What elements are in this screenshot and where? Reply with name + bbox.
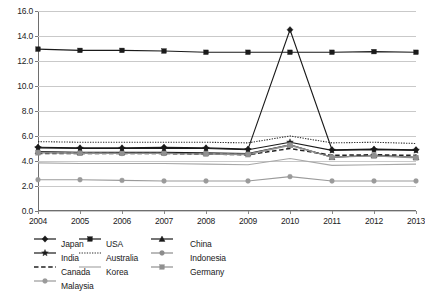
y-tick-label: 2.0 (22, 181, 33, 191)
y-tick-label: 14.0 (17, 31, 33, 41)
x-tick-mark (248, 211, 249, 214)
legend-key-triangle-icon (150, 234, 174, 244)
data-point (330, 50, 335, 55)
x-tick-mark (80, 211, 81, 214)
series-australia (38, 136, 416, 144)
y-tick-label: 12.0 (17, 56, 33, 66)
x-tick-mark (332, 211, 333, 214)
legend-label: USA (106, 239, 123, 249)
y-tick-label: 8.0 (22, 106, 33, 116)
x-tick-mark (164, 211, 165, 214)
series-line (38, 177, 416, 181)
data-point (372, 49, 377, 54)
x-tick-label: 2010 (281, 216, 299, 226)
data-point (162, 151, 167, 156)
series-line (38, 159, 416, 166)
series-line (38, 145, 416, 158)
data-point (288, 50, 293, 55)
series-line (38, 30, 416, 150)
x-tick-label: 2008 (197, 216, 215, 226)
x-tick-label: 2011 (323, 216, 340, 226)
data-point (414, 179, 419, 184)
series-germany (36, 143, 419, 160)
legend-label: Germany (190, 267, 224, 277)
data-point (36, 177, 41, 182)
legend-label: Malaysia (61, 281, 94, 291)
data-point (414, 156, 419, 161)
series-layer (38, 11, 416, 211)
data-point (78, 151, 83, 156)
series-india (35, 139, 420, 153)
y-tick-label: 16.0 (17, 6, 33, 16)
data-point (414, 50, 419, 55)
data-point (287, 27, 293, 33)
x-tick-label: 2004 (29, 216, 47, 226)
legend-key-none-icon (78, 248, 102, 258)
legend-key-diamond-icon (33, 234, 57, 244)
data-point (120, 151, 125, 156)
data-point (204, 179, 209, 184)
data-point (330, 155, 335, 160)
legend-label: Australia (106, 253, 138, 263)
plot-region: 0.02.04.06.08.010.012.014.016.0200420052… (38, 11, 416, 211)
chart-legend: JapanUSAChinaIndiaAustraliaIndonesiaCana… (0, 237, 422, 296)
data-point (288, 174, 293, 179)
legend-label: China (190, 239, 212, 249)
y-gridline (38, 211, 416, 212)
legend-key-none-icon (78, 262, 102, 272)
data-point (36, 47, 41, 52)
x-tick-mark (374, 211, 375, 214)
data-point (246, 179, 251, 184)
series-line (38, 136, 416, 144)
y-tick-label: 4.0 (22, 156, 33, 166)
series-korea (38, 159, 416, 166)
legend-key-star-icon (33, 248, 57, 258)
data-point (246, 50, 251, 55)
data-point (288, 143, 293, 148)
chart-title (0, 0, 422, 7)
series-china (35, 142, 419, 160)
legend-label: India (61, 253, 79, 263)
x-tick-mark (206, 211, 207, 214)
x-tick-label: 2006 (113, 216, 131, 226)
x-tick-label: 2013 (407, 216, 425, 226)
data-point (246, 152, 251, 157)
x-tick-mark (38, 211, 39, 214)
data-point (36, 151, 41, 156)
series-usa (36, 47, 419, 55)
data-point (330, 179, 335, 184)
legend-key-none-icon (33, 262, 57, 272)
y-tick-label: 6.0 (22, 131, 33, 141)
legend-key-circle-icon (33, 276, 57, 286)
x-tick-mark (416, 211, 417, 214)
x-tick-mark (122, 211, 123, 214)
series-line (38, 49, 416, 52)
x-tick-mark (290, 211, 291, 214)
y-tick-label: 10.0 (17, 81, 33, 91)
data-point (204, 152, 209, 157)
legend-key-square-icon (78, 234, 102, 244)
series-indonesia (36, 142, 419, 159)
legend-label: Indonesia (190, 253, 226, 263)
x-tick-label: 2007 (155, 216, 173, 226)
data-point (120, 178, 125, 183)
y-tick-label: 0.0 (22, 206, 33, 216)
data-point (120, 48, 125, 53)
data-point (204, 50, 209, 55)
data-point (162, 179, 167, 184)
series-japan (35, 27, 419, 153)
x-tick-label: 2012 (365, 216, 383, 226)
data-point (78, 48, 83, 53)
data-point (372, 179, 377, 184)
chart-area: 0.02.04.06.08.010.012.014.016.0200420052… (0, 7, 422, 235)
data-point (78, 177, 83, 182)
x-tick-label: 2005 (71, 216, 89, 226)
data-point (162, 49, 167, 54)
legend-label: Korea (106, 267, 128, 277)
data-point (372, 154, 377, 159)
legend-key-square-icon (150, 262, 174, 272)
series-malaysia (36, 174, 419, 183)
x-tick-label: 2009 (239, 216, 257, 226)
legend-key-circle-icon (150, 248, 174, 258)
